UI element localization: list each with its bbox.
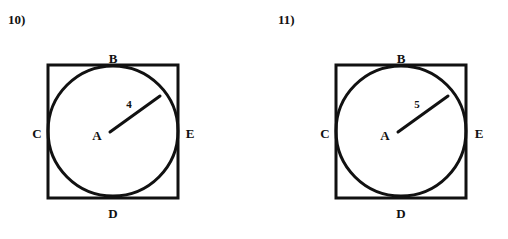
figure-10: 4 B C A E D — [0, 0, 254, 239]
vertex-label-b: B — [109, 52, 118, 65]
vertex-label-d: D — [396, 207, 405, 220]
figure-10-drawing — [0, 0, 254, 239]
figure-11-drawing — [254, 0, 508, 239]
center-label-a: A — [92, 129, 101, 142]
vertex-label-c: C — [32, 127, 41, 140]
radius-length-label: 5 — [414, 99, 420, 110]
vertex-label-c: C — [320, 127, 329, 140]
radius-length-label: 4 — [126, 99, 132, 110]
figure-11: 5 B C A E D — [254, 0, 508, 239]
vertex-label-b: B — [397, 52, 406, 65]
vertex-label-e: E — [475, 127, 484, 140]
vertex-label-e: E — [186, 127, 195, 140]
radius-line — [110, 96, 160, 132]
center-label-a: A — [380, 129, 389, 142]
radius-line — [398, 96, 448, 132]
problem-11: 11) 5 B C A E D — [254, 0, 508, 239]
worksheet-page: 10) 4 B C A E D 11) 5 B C — [0, 0, 508, 239]
vertex-label-d: D — [108, 207, 117, 220]
problem-10: 10) 4 B C A E D — [0, 0, 254, 239]
